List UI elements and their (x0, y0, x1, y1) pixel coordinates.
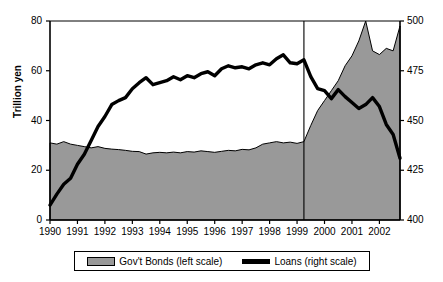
y-axis-right-tick-label: 450 (407, 115, 437, 126)
y-axis-right-tick-label: 400 (407, 214, 437, 225)
y-axis-left-tick-label: 20 (16, 164, 42, 175)
legend-label-loans: Loans (right scale) (274, 256, 356, 267)
y-axis-left-tick-label: 40 (16, 115, 42, 126)
plot-canvas (0, 0, 443, 282)
x-axis-tick-label: 2002 (362, 226, 396, 237)
chart-figure: Trillion yen 020406080 400425450475500 1… (0, 0, 443, 282)
area-swatch-icon (87, 257, 115, 266)
y-axis-right-tick-label: 475 (407, 65, 437, 76)
y-axis-right-tick-label: 500 (407, 15, 437, 26)
legend-item-gov-bonds: Gov't Bonds (left scale) (87, 256, 222, 267)
legend-label-gov-bonds: Gov't Bonds (left scale) (119, 256, 222, 267)
y-axis-left-tick-label: 0 (16, 214, 42, 225)
chart-legend: Gov't Bonds (left scale) Loans (right sc… (74, 251, 370, 271)
y-axis-right-tick-label: 425 (407, 164, 437, 175)
y-axis-left-tick-label: 80 (16, 15, 42, 26)
y-axis-left-tick-label: 60 (16, 65, 42, 76)
line-swatch-icon (242, 259, 270, 264)
legend-item-loans: Loans (right scale) (242, 256, 356, 267)
